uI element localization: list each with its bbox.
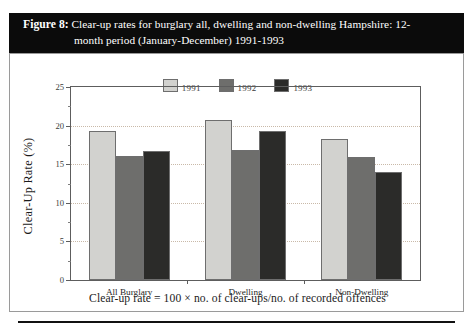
figure-title-line-1: Clear-up rates for burglary all, dwellin… (72, 18, 411, 30)
y-axis-minor-tick (68, 261, 71, 262)
bar-all-burglary-1992 (116, 156, 143, 280)
figure-caption-line-1: Figure 8: Clear-up rates for burglary al… (23, 17, 450, 33)
y-axis-minor-tick (68, 184, 71, 185)
bar-non-dwelling-1992 (348, 157, 375, 280)
x-axis-tick (187, 280, 188, 284)
bar-all-burglary-1993 (143, 151, 170, 280)
bar-non-dwelling-1993 (375, 172, 402, 280)
y-axis-minor-tick (68, 106, 71, 107)
bar-dwelling-1991 (205, 120, 232, 280)
y-axis-tick-label-15: 15 (55, 159, 64, 169)
bar-non-dwelling-1991 (321, 139, 348, 280)
y-axis-tick-label-0: 0 (60, 275, 64, 285)
figure-title-line-2: month period (January-December) 1991-199… (23, 33, 450, 49)
chart-footnote: Clear-up rate = 100 × no. of clear-ups/n… (10, 292, 465, 305)
y-axis-tick-0 (66, 280, 71, 281)
bar-all-burglary-1991 (89, 131, 116, 280)
y-axis-minor-tick (68, 145, 71, 146)
figure-container: Figure 8: Clear-up rates for burglary al… (9, 13, 464, 313)
gridline-20 (71, 126, 420, 127)
y-axis-tick-label-20: 20 (55, 121, 64, 131)
y-axis-tick-25 (66, 87, 71, 88)
bar-dwelling-1992 (232, 150, 259, 280)
y-axis-tick-label-25: 25 (55, 82, 64, 92)
y-axis-tick-label-5: 5 (60, 236, 64, 246)
y-axis-tick-15 (66, 164, 71, 165)
chart-plate: 199119921993 Clear-Up Rate (%) 051015202… (9, 53, 464, 312)
bottom-divider-rule (18, 321, 455, 323)
x-axis-tick (304, 280, 305, 284)
figure-caption-band: Figure 8: Clear-up rates for burglary al… (9, 13, 464, 53)
y-axis-tick-5 (66, 241, 71, 242)
bar-dwelling-1993 (259, 131, 286, 280)
y-axis-tick-20 (66, 126, 71, 127)
y-axis-minor-tick (68, 222, 71, 223)
y-axis-tick-10 (66, 203, 71, 204)
plot-area: 0510152025All BurglaryDwellingNon-Dwelli… (70, 86, 421, 281)
y-axis-tick-label-10: 10 (55, 198, 64, 208)
y-axis-title: Clear-Up Rate (%) (21, 6, 36, 126)
